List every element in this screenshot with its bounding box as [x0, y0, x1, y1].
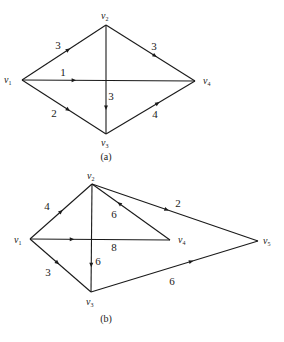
edge-line: [22, 80, 106, 134]
node-label-v1: v1: [14, 234, 21, 246]
edge-v4-v2: 6: [92, 184, 170, 240]
node-label-v2: v2: [87, 170, 94, 182]
edge-line: [30, 239, 91, 292]
edge-v1-v3: 3: [30, 239, 91, 292]
edge-v1-v4: 1: [22, 66, 195, 82]
edge-v3-v4: 4: [106, 81, 195, 134]
edge-weight: 3: [45, 266, 51, 278]
edge-line: [22, 80, 195, 81]
graph-b: 4836626v1v2v3v4v5(b): [14, 170, 270, 325]
edge-weight: 6: [111, 208, 117, 220]
arrowhead-icon: [72, 78, 77, 82]
node-label-v1: v1: [4, 74, 11, 86]
edge-v2-v4: 3: [106, 25, 195, 81]
edge-v2-v3: 6: [89, 184, 101, 292]
edge-weight: 1: [60, 66, 66, 78]
edge-line: [106, 25, 195, 81]
arrowhead-icon: [188, 260, 193, 264]
node-label-v3: v3: [101, 137, 108, 149]
arrowhead-icon: [164, 207, 169, 211]
figure-caption: (b): [100, 313, 112, 325]
directed-weighted-graphs: 331324v1v2v3v4(a) 4836626v1v2v3v4v5(b): [0, 0, 284, 342]
edge-line: [106, 81, 195, 134]
edge-weight: 4: [152, 108, 158, 120]
edge-weight: 8: [111, 241, 117, 253]
arrowhead-icon: [70, 237, 75, 241]
edge-weight: 3: [151, 40, 157, 52]
figure-caption: (a): [100, 151, 111, 163]
graph-figure: 331324v1v2v3v4(a) 4836626v1v2v3v4v5(b): [0, 0, 284, 342]
edge-line: [92, 184, 170, 240]
edge-weight: 6: [169, 275, 175, 287]
edge-line: [30, 239, 170, 240]
graph-a: 331324v1v2v3v4(a): [4, 10, 210, 163]
edge-weight: 3: [108, 90, 114, 102]
edge-weight: 2: [51, 107, 57, 119]
edge-v1-v3: 2: [22, 80, 106, 134]
edge-v2-v5: 2: [92, 184, 258, 241]
arrowhead-icon: [89, 263, 93, 268]
edge-weight: 4: [44, 200, 50, 212]
edge-weight: 3: [55, 39, 61, 51]
node-label-v2: v2: [101, 10, 108, 22]
edge-line: [91, 184, 92, 292]
edge-weight: 6: [95, 255, 101, 267]
edge-weight: 2: [175, 197, 181, 209]
edge-line: [92, 184, 258, 241]
node-label-v3: v3: [86, 296, 93, 308]
node-label-v4: v4: [178, 234, 185, 246]
edge-v1-v4: 8: [30, 237, 170, 253]
arrowhead-icon: [104, 106, 108, 111]
node-label-v4: v4: [203, 75, 210, 87]
edge-v1-v2: 4: [30, 184, 92, 239]
edge-v2-v3: 3: [104, 25, 114, 134]
node-label-v5: v5: [263, 235, 270, 247]
